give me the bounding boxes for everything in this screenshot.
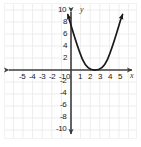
x-tick-label-4: 4 xyxy=(108,73,112,81)
parabola-left-arrowhead xyxy=(68,15,70,21)
x-tick-label-neg4: -4 xyxy=(29,73,35,81)
y-tick-label-neg4: -4 xyxy=(60,89,66,97)
y-tick-label-neg8: -8 xyxy=(60,113,66,121)
y-tick-label-4: 4 xyxy=(63,42,67,50)
x-axis-label: x xyxy=(130,72,134,80)
graph-screenshot: y x 10 8 6 4 2 -2 -4 -6 -8 -10 -5 -4 -3 … xyxy=(0,0,141,147)
x-tick-label-0: 0 xyxy=(66,73,70,81)
x-tick-label-2: 2 xyxy=(88,73,92,81)
x-tick-label-neg1: -1 xyxy=(59,73,65,81)
y-tick-label-8: 8 xyxy=(63,18,67,26)
y-tick-label-10: 10 xyxy=(58,6,66,14)
y-tick-label-neg10: -10 xyxy=(56,125,66,133)
y-tick-label-6: 6 xyxy=(63,30,67,38)
y-tick-label-2: 2 xyxy=(63,54,67,62)
x-tick-label-1: 1 xyxy=(78,73,82,81)
x-tick-label-neg3: -3 xyxy=(39,73,45,81)
x-tick-label-neg5: -5 xyxy=(19,73,25,81)
x-tick-label-5: 5 xyxy=(118,73,122,81)
y-tick-label-neg6: -6 xyxy=(60,101,66,109)
parabola-curve xyxy=(70,15,123,71)
y-axis-label: y xyxy=(80,6,84,14)
x-tick-label-3: 3 xyxy=(98,73,102,81)
x-tick-label-neg2: -2 xyxy=(49,73,55,81)
